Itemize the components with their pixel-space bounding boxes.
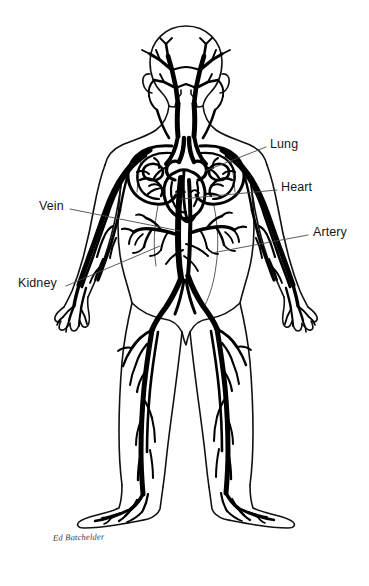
anatomy-illustration [0,0,369,586]
artist-signature: Ed Batchelder [53,531,105,542]
label-artery: Artery [313,226,347,239]
label-vein: Vein [39,200,64,213]
circulatory-system-figure: Lung Heart Artery Vein Kidney Ed Batchel… [0,0,369,586]
label-lung: Lung [270,138,298,151]
label-heart: Heart [281,181,312,194]
figure-background [0,0,369,586]
label-kidney: Kidney [18,277,57,290]
